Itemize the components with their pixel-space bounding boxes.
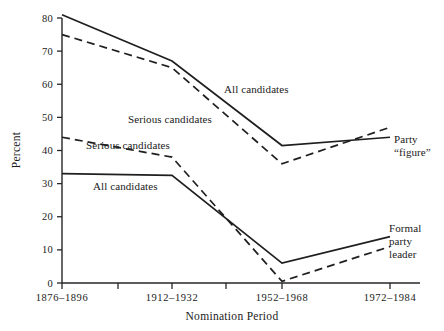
x-axis-ticks bbox=[62, 283, 390, 289]
y-tick-label: 50 bbox=[42, 112, 53, 123]
x-tick-label: 1876–1896 bbox=[36, 292, 89, 303]
x-axis-tick-labels: 1876–18961912–19321952–19681972–1984 bbox=[36, 292, 417, 303]
annotation-party-figure-line2: “figure” bbox=[394, 146, 431, 158]
series-line-2 bbox=[62, 137, 390, 281]
annotation-party-figure-line1: Party bbox=[394, 133, 418, 145]
y-tick-label: 30 bbox=[42, 178, 53, 189]
chart-annotations: All candidatesSerious candidatesSerious … bbox=[86, 83, 431, 260]
annotation-all-candidates-upper: All candidates bbox=[224, 83, 289, 95]
x-tick-label: 1912–1932 bbox=[146, 292, 199, 303]
annotation-serious-candidates-lower: Serious candidates bbox=[86, 139, 170, 151]
y-tick-label: 60 bbox=[42, 79, 53, 90]
chart-container: 01020304050607080 1876–18961912–19321952… bbox=[0, 0, 444, 331]
x-tick-label: 1972–1984 bbox=[364, 292, 417, 303]
y-axis-ticks bbox=[57, 18, 62, 283]
annotation-formal-party-leader-line2: party bbox=[389, 235, 413, 247]
x-tick-label: 1952–1968 bbox=[256, 292, 309, 303]
annotation-formal-party-leader-line3: leader bbox=[389, 248, 417, 260]
y-tick-label: 40 bbox=[42, 145, 53, 156]
annotation-formal-party-leader-line1: Formal bbox=[389, 222, 421, 234]
annotation-all-candidates-lower: All candidates bbox=[93, 180, 158, 192]
y-axis-tick-labels: 01020304050607080 bbox=[42, 13, 53, 289]
y-tick-label: 0 bbox=[47, 278, 53, 289]
series-line-0 bbox=[62, 15, 390, 146]
y-axis-title: Percent bbox=[10, 131, 22, 168]
line-chart: 01020304050607080 1876–18961912–19321952… bbox=[0, 0, 444, 331]
y-tick-label: 10 bbox=[42, 244, 53, 255]
y-tick-label: 20 bbox=[42, 211, 53, 222]
y-tick-label: 70 bbox=[42, 46, 53, 57]
annotation-serious-candidates-upper: Serious candidates bbox=[128, 113, 212, 125]
x-axis-title: Nomination Period bbox=[186, 310, 279, 322]
y-tick-label: 80 bbox=[42, 13, 53, 24]
